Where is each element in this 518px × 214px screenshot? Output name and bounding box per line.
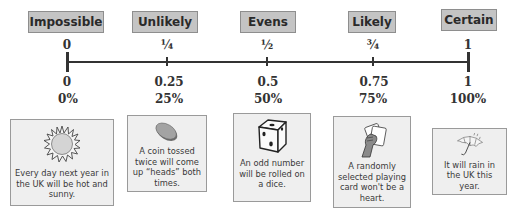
example-text: Every day next year in the UK will be ho… xyxy=(14,168,110,200)
probability-axis xyxy=(67,61,469,63)
umbrella-icon xyxy=(450,133,490,157)
fraction-1: 1 xyxy=(464,38,472,52)
fraction-three-quarters: ¾ xyxy=(367,38,380,52)
label-evens: Evens xyxy=(240,11,296,33)
percent-50: 50% xyxy=(254,92,282,106)
percent-25: 25% xyxy=(155,92,183,106)
example-text: A randomly selected playing card won't b… xyxy=(337,161,407,203)
decimal-0: 0 xyxy=(63,75,71,89)
tick-1 xyxy=(467,52,470,72)
fraction-0: 0 xyxy=(63,38,71,52)
label-impossible: Impossible xyxy=(28,11,104,33)
label-likely: Likely xyxy=(348,11,396,33)
example-card-certain: It will rain in the UK this year. xyxy=(432,128,507,195)
label-unlikely: Unlikely xyxy=(132,11,198,33)
decimal-0-5: 0.5 xyxy=(258,75,279,89)
decimal-1: 1 xyxy=(464,75,472,89)
label-certain: Certain xyxy=(441,9,497,31)
decimal-0-25: 0.25 xyxy=(154,75,183,89)
example-text: An odd number will be rolled on a dice. xyxy=(237,158,307,190)
example-card-evens: An odd number will be rolled on a dice. xyxy=(233,113,311,202)
coin-icon xyxy=(150,120,184,144)
example-card-impossible: Every day next year in the UK will be ho… xyxy=(10,119,114,206)
percent-100: 100% xyxy=(450,92,486,106)
fraction-half: ½ xyxy=(261,38,274,52)
decimal-0-75: 0.75 xyxy=(359,75,388,89)
playing-card-icon xyxy=(354,121,390,159)
tick-half xyxy=(266,57,268,66)
tick-three-quarters xyxy=(372,57,374,66)
example-text: It will rain in the UK this year. xyxy=(436,160,503,192)
tick-quarter xyxy=(166,57,168,66)
dice-icon xyxy=(254,118,290,154)
percent-75: 75% xyxy=(359,92,387,106)
tick-0 xyxy=(66,52,69,72)
sun-icon xyxy=(42,124,82,164)
example-text: A coin tossed twice will come up “heads”… xyxy=(131,146,203,188)
percent-0: 0% xyxy=(58,92,78,106)
example-card-unlikely: A coin tossed twice will come up “heads”… xyxy=(127,115,207,192)
example-card-likely: A randomly selected playing card won't b… xyxy=(333,116,411,208)
fraction-quarter: ¼ xyxy=(161,38,174,52)
